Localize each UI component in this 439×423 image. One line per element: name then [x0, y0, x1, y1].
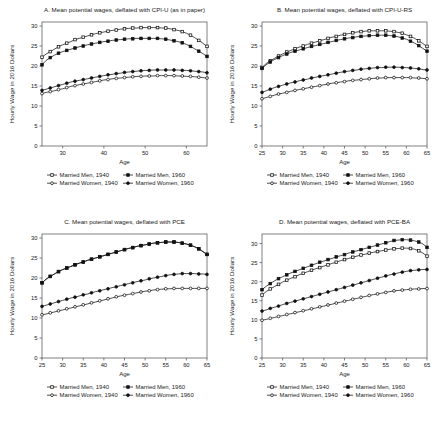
series-marker [426, 77, 429, 80]
series-marker [115, 77, 118, 80]
series-marker [131, 27, 134, 30]
series-marker [327, 264, 330, 267]
panel-title-D: D. Mean potential wages, deflated with P… [279, 218, 411, 225]
series-marker [57, 300, 60, 303]
series-marker [115, 72, 118, 75]
series-marker [302, 297, 305, 300]
series-marker [131, 70, 134, 73]
series-marker [49, 50, 52, 53]
series-marker [41, 89, 44, 92]
series-marker [285, 279, 288, 282]
series-marker [197, 248, 200, 251]
figure-multi-panel-wages: A. Mean potential wages, deflated with C… [0, 0, 439, 423]
series-marker [368, 30, 371, 33]
x-axis-label: Age [119, 371, 130, 377]
series-marker [123, 283, 126, 286]
series-marker [98, 32, 101, 35]
series-marker [49, 275, 52, 278]
series-marker [164, 241, 167, 244]
series-marker [49, 90, 52, 93]
series-marker [123, 38, 126, 41]
legend-label-women_1940: Married Women, 1940 [60, 180, 119, 186]
series-marker [401, 289, 404, 292]
series-1 [261, 30, 429, 69]
series-marker [90, 77, 93, 80]
series-marker [261, 288, 264, 291]
series-marker [269, 95, 272, 98]
series-marker [310, 295, 313, 298]
series-marker [310, 45, 313, 48]
panel-a: A. Mean potential wages, deflated with C… [0, 0, 219, 211]
panel-svg-A: A. Mean potential wages, deflated with C… [0, 0, 219, 211]
legend-label-men_1940: Married Men, 1940 [280, 172, 330, 178]
legend-label-men_1960: Married Men, 1960 [356, 384, 406, 390]
x-tick-label: 50 [142, 362, 148, 368]
series-marker [115, 39, 118, 42]
series-marker [360, 248, 363, 251]
series-marker [417, 67, 420, 70]
series-marker [123, 248, 126, 251]
x-tick-label: 30 [279, 150, 285, 156]
series-marker [401, 32, 404, 35]
series-marker [310, 269, 313, 272]
series-marker [384, 76, 387, 79]
series-marker [148, 289, 151, 292]
series-marker [343, 33, 346, 36]
series-marker [285, 83, 288, 86]
series-marker [360, 35, 363, 38]
y-tick-label: 0 [254, 355, 257, 361]
series-marker [368, 34, 371, 37]
x-tick-label: 40 [101, 362, 107, 368]
legend-label-women_1940: Married Women, 1940 [280, 392, 339, 398]
legend-label-women_1940: Married Women, 1940 [280, 180, 339, 186]
series-marker [156, 74, 159, 77]
series-marker [140, 69, 143, 72]
series-marker [343, 258, 346, 261]
series-marker [426, 45, 429, 48]
series-marker [82, 45, 85, 48]
series-marker [302, 309, 305, 312]
series-marker [277, 85, 280, 88]
legend-marker-men_1940 [271, 386, 274, 389]
series-marker [164, 27, 167, 30]
series-2 [41, 241, 209, 284]
legend-label-men_1960: Married Men, 1960 [136, 384, 186, 390]
series-marker [368, 77, 371, 80]
series-marker [181, 75, 184, 78]
y-tick-label: 25 [251, 260, 257, 266]
series-marker [393, 289, 396, 292]
series-marker [294, 311, 297, 314]
x-tick-label: 65 [424, 150, 430, 156]
series-2 [261, 238, 429, 291]
series-marker [82, 293, 85, 296]
series-marker [318, 261, 321, 264]
series-marker [82, 261, 85, 264]
y-axis-label: Hourly Wage in 2016 Dollars [228, 45, 235, 124]
x-tick-label: 45 [341, 362, 347, 368]
series-marker [409, 288, 412, 291]
series-marker [302, 48, 305, 51]
y-tick-label: 0 [34, 355, 37, 361]
series-marker [181, 287, 184, 290]
series-marker [74, 80, 77, 83]
series-marker [310, 264, 313, 267]
series-marker [393, 35, 396, 38]
x-tick-label: 60 [403, 150, 409, 156]
series-marker [376, 250, 379, 253]
series-2 [41, 37, 209, 66]
panel-svg-C: C. Mean potential wages, deflated with P… [0, 212, 219, 423]
y-tick-label: 30 [251, 241, 257, 247]
series-marker [376, 30, 379, 33]
series-marker [376, 34, 379, 37]
series-marker [57, 46, 60, 49]
x-tick-label: 30 [279, 362, 285, 368]
series-marker [206, 273, 209, 276]
series-marker [343, 38, 346, 41]
series-marker [376, 277, 379, 280]
series-marker [335, 288, 338, 291]
series-marker [131, 281, 134, 284]
series-marker [107, 78, 110, 81]
y-tick-label: 15 [251, 298, 257, 304]
series-marker [82, 83, 85, 86]
series-marker [335, 261, 338, 264]
